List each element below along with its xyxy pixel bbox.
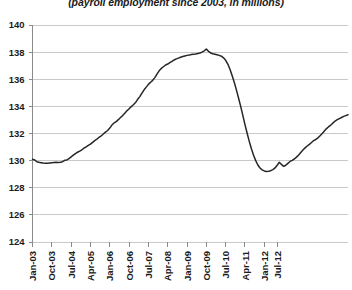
- y-axis-tick-label: 126: [9, 209, 25, 220]
- y-axis-tick-label: 136: [9, 74, 25, 85]
- y-axis-tick-label: 130: [9, 155, 25, 166]
- chart-container: (payroll employment since 2003, in milli…: [0, 0, 352, 290]
- y-axis-tick-label: 124: [9, 236, 26, 247]
- x-axis-tick-label: Jan-03: [27, 251, 38, 281]
- y-axis-tick-label: 132: [9, 128, 25, 139]
- line-chart-plot: 124126128130132134136138140 Jan-03Oct-03…: [0, 0, 352, 290]
- x-axis-tick-label: Oct-09: [201, 251, 212, 281]
- x-axis-tick-label: Jul-07: [143, 251, 154, 278]
- y-axis-tick-label: 140: [9, 19, 25, 30]
- y-axis-tick-label: 138: [9, 47, 25, 58]
- x-axis-tickmarks: [33, 242, 278, 247]
- x-axis-tick-label: Jul-10: [220, 251, 231, 278]
- x-axis-tick-label: Apr-05: [85, 250, 96, 281]
- x-axis-tick-label: Jan-09: [182, 251, 193, 281]
- x-axis-tick-label: Oct-03: [46, 251, 57, 281]
- x-axis-tick-label: Apr-11: [240, 250, 251, 280]
- x-axis-tick-label: Jan-12: [259, 251, 270, 281]
- x-axis-tick-label: Jul-04: [66, 250, 77, 278]
- data-series-line: [33, 49, 349, 171]
- gridlines: [33, 25, 349, 242]
- x-axis-tick-label: Oct-06: [124, 251, 135, 281]
- y-axis-tick-label: 128: [9, 182, 25, 193]
- x-axis-tick-label: Jul-12: [272, 251, 283, 278]
- y-axis-tick-labels: 124126128130132134136138140: [9, 19, 26, 247]
- y-axis-tick-label: 134: [9, 101, 26, 112]
- x-axis-tick-labels: Jan-03Oct-03Jul-04Apr-05Jan-06Oct-06Jul-…: [27, 250, 283, 281]
- x-axis-tick-label: Jan-06: [104, 251, 115, 281]
- x-axis-tick-label: Apr-08: [162, 251, 173, 281]
